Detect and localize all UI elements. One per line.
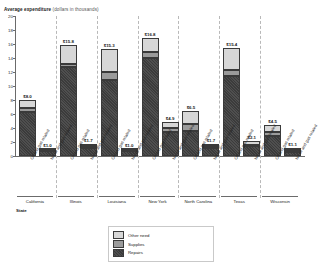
legend-item-supplies[interactable]: Supplies: [113, 240, 209, 248]
bar-segment-other[interactable]: [162, 122, 179, 128]
legend-swatch-supplies-icon: [113, 240, 124, 248]
y-axis-tick-label: 20: [0, 14, 13, 19]
x-axis-line: [15, 156, 305, 157]
bar-segment-supplies[interactable]: [19, 108, 36, 112]
y-axis-tick-label: 10: [0, 84, 13, 89]
group-label: New York: [140, 199, 176, 204]
y-axis-tick-mark: [13, 142, 15, 143]
y-axis-tick-mark: [13, 30, 15, 31]
group-separator: [260, 16, 261, 198]
y-axis-line: [15, 16, 16, 157]
bar-segment-supplies[interactable]: [60, 64, 77, 68]
legend-item-other[interactable]: Other need: [113, 231, 209, 239]
legend: Other need Supplies Repairs: [108, 226, 214, 262]
y-axis-tick-mark: [13, 72, 15, 73]
bar-segment-other[interactable]: [60, 45, 77, 63]
group-underline: [221, 196, 257, 197]
bar-segment-other[interactable]: [223, 48, 240, 70]
y-axis-tick-mark: [13, 100, 15, 101]
y-axis-tick-mark: [13, 128, 15, 129]
legend-swatch-other-icon: [113, 231, 124, 239]
y-axis-tick-label: 18: [0, 28, 13, 33]
bar-segment-supplies[interactable]: [223, 70, 240, 76]
group-underline: [58, 196, 94, 197]
y-axis-tick-mark: [13, 16, 15, 17]
y-axis-tick-label: 6: [0, 112, 13, 117]
group-label: Illinois: [58, 199, 94, 204]
bar-segment-supplies[interactable]: [101, 72, 118, 80]
y-axis-title-units: (dollars in thousands): [53, 7, 99, 12]
chart-canvas: Average expenditure (dollars in thousand…: [0, 0, 319, 270]
group-underline: [180, 196, 216, 197]
group-label: Louisiana: [99, 199, 135, 204]
legend-item-repairs[interactable]: Repairs: [113, 249, 209, 257]
x-axis-title: State: [16, 208, 27, 213]
group-label: California: [17, 199, 53, 204]
y-axis-tick-label: 4: [0, 126, 13, 131]
group-label: North Carolina: [180, 199, 216, 204]
group-label: Texas: [221, 199, 257, 204]
y-axis-title-main: Average expenditure: [4, 7, 51, 12]
y-axis-tick-label: 14: [0, 56, 13, 61]
y-axis-title: Average expenditure (dollars in thousand…: [4, 7, 99, 12]
bar-segment-other[interactable]: [101, 49, 118, 72]
y-axis-tick-mark: [13, 156, 15, 157]
group-underline: [99, 196, 135, 197]
y-axis-tick-mark: [13, 44, 15, 45]
group-label: Wisconsin: [262, 199, 298, 204]
bar-segment-other[interactable]: [142, 38, 159, 51]
legend-label-repairs: Repairs: [128, 250, 143, 255]
y-axis-tick-mark: [13, 58, 15, 59]
y-axis-tick-mark: [13, 86, 15, 87]
y-axis-tick-mark: [13, 114, 15, 115]
y-axis-tick-label: 12: [0, 70, 13, 75]
group-underline: [140, 196, 176, 197]
group-underline: [17, 196, 53, 197]
y-axis-tick-label: 2: [0, 140, 13, 145]
y-axis-tick-label: 0: [0, 154, 13, 159]
bar-stack[interactable]: [19, 16, 36, 156]
bar-segment-supplies[interactable]: [142, 52, 159, 58]
legend-swatch-repairs-icon: [113, 249, 124, 257]
bar-segment-other[interactable]: [19, 100, 36, 108]
y-axis-tick-label: 16: [0, 42, 13, 47]
legend-label-supplies: Supplies: [128, 242, 144, 247]
legend-label-other: Other need: [128, 233, 150, 238]
bar-segment-other[interactable]: [182, 111, 199, 124]
group-separator: [138, 16, 139, 198]
group-underline: [262, 196, 298, 197]
